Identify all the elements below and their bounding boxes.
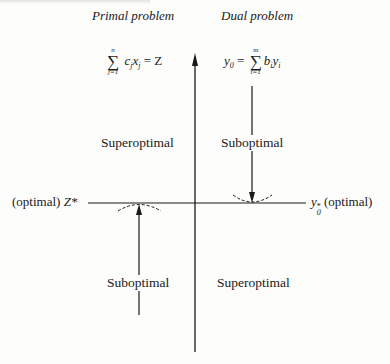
region-dual-superoptimal: Superoptimal <box>217 275 290 291</box>
primal-objective-equation: n ∑ j=1 cjxj = Z <box>105 47 162 76</box>
region-primal-superoptimal: Superoptimal <box>101 135 174 151</box>
dual-header: Dual problem <box>221 8 293 24</box>
up-arrowhead-icon <box>192 53 198 66</box>
up-arrowhead-icon <box>136 204 142 215</box>
dual-objective-equation: y0 = m ∑ i=1 biyi <box>224 47 281 76</box>
primal-optimal-label: (optimal) Z* <box>12 194 77 210</box>
dual-optimal-label: y*0 (optimal) <box>311 194 372 217</box>
summation-symbol: n ∑ j=1 <box>107 47 119 76</box>
summation-symbol: m ∑ i=1 <box>250 47 262 76</box>
region-primal-suboptimal: Suboptimal <box>106 275 170 291</box>
down-arrowhead-icon <box>249 192 255 203</box>
primal-ascent-arrow <box>118 204 161 315</box>
diagram-lines <box>0 0 390 364</box>
primal-header: Primal problem <box>92 8 174 24</box>
region-dual-suboptimal: Suboptimal <box>220 135 284 151</box>
